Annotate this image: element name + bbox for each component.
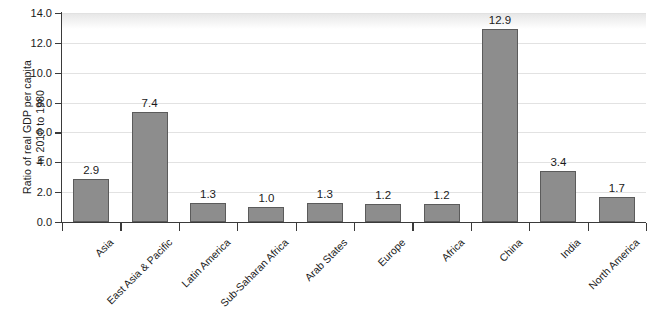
bar-value-label: 1.3: [317, 188, 333, 200]
y-axis-tick-mark: [55, 13, 62, 14]
bar-value-label: 1.2: [375, 189, 391, 201]
y-axis-tick-label: 0.0: [18, 216, 52, 228]
x-axis-category-label-text: North America: [586, 236, 642, 292]
y-axis-tick-labels: 0.02.04.06.08.010.012.014.0: [14, 0, 52, 327]
y-axis-tick-mark: [55, 192, 62, 193]
x-axis-category-label: India: [558, 236, 583, 261]
y-axis-tick-mark: [55, 222, 62, 223]
x-axis-category-label-text: Africa: [439, 236, 466, 263]
x-axis-category-label-text: Arab States: [302, 236, 349, 283]
bar: [424, 204, 460, 222]
x-axis-tick-mark: [354, 223, 355, 231]
x-axis-category-label: China: [497, 236, 525, 264]
x-axis-tick-mark: [237, 223, 238, 231]
x-axis-tick-mark: [412, 223, 413, 231]
y-axis-tick-mark: [55, 43, 62, 44]
bar-value-label: 2.9: [83, 164, 99, 176]
x-axis-tick-mark: [62, 223, 63, 231]
bar-value-label: 12.9: [489, 14, 511, 26]
gridline: [62, 13, 646, 14]
plot-area: [62, 13, 646, 222]
x-axis-tick-mark: [646, 223, 647, 231]
x-axis-category-label-text: India: [558, 236, 583, 261]
y-axis-tick-mark: [55, 103, 62, 104]
x-axis-category-label: North America: [586, 236, 642, 292]
bar-value-label: 1.0: [258, 192, 274, 204]
bar: [540, 171, 576, 222]
bar-value-label: 1.2: [434, 189, 450, 201]
y-axis-tick-label: 14.0: [18, 7, 52, 19]
bar: [248, 207, 284, 222]
y-axis-tick-mark: [55, 162, 62, 163]
x-axis-category-label: Europe: [375, 236, 407, 268]
y-axis-tick-label: 6.0: [18, 126, 52, 138]
x-axis-category-label: East Asia & Pacific: [104, 236, 174, 306]
y-axis-tick-label: 10.0: [18, 67, 52, 79]
bar-value-label: 1.7: [609, 182, 625, 194]
y-axis-tick-label: 12.0: [18, 37, 52, 49]
x-axis-tick-mark: [471, 223, 472, 231]
bar: [132, 112, 168, 222]
x-axis-category-label-text: Latin America: [179, 236, 232, 289]
x-axis-category-label-text: Europe: [375, 236, 407, 268]
x-axis-category-label-text: Asia: [93, 236, 116, 259]
bar: [482, 29, 518, 222]
bar: [73, 179, 109, 222]
x-axis-tick-mark: [296, 223, 297, 231]
y-axis-tick-mark: [55, 132, 62, 133]
bar-value-label: 1.3: [200, 188, 216, 200]
bar: [599, 197, 635, 222]
x-axis-category-label: Latin America: [179, 236, 232, 289]
gridline: [62, 43, 646, 44]
y-axis-tick-label: 2.0: [18, 186, 52, 198]
bar: [365, 204, 401, 222]
x-axis-tick-mark: [529, 223, 530, 231]
x-axis-category-label-text: East Asia & Pacific: [104, 236, 174, 306]
x-axis-category-label: Africa: [439, 236, 466, 263]
x-axis-category-label: Asia: [93, 236, 116, 259]
x-axis-category-label: Arab States: [302, 236, 349, 283]
bar-value-label: 7.4: [142, 97, 158, 109]
bar: [307, 203, 343, 222]
x-axis-tick-mark: [588, 223, 589, 231]
bar: [190, 203, 226, 222]
x-axis-category-label-text: China: [497, 236, 525, 264]
bar-chart: Ratio of real GDP per capita in 2010 to …: [0, 0, 653, 327]
y-axis-tick-mark: [55, 73, 62, 74]
bar-value-label: 3.4: [550, 156, 566, 168]
y-axis-tick-label: 8.0: [18, 97, 52, 109]
y-axis-tick-label: 4.0: [18, 156, 52, 168]
x-axis-tick-mark: [120, 223, 121, 231]
x-axis-tick-mark: [179, 223, 180, 231]
gridline: [62, 73, 646, 74]
